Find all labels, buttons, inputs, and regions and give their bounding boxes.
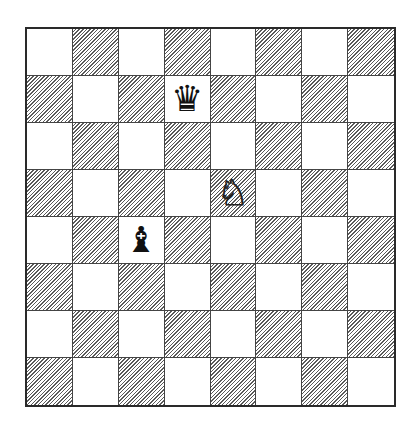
- square-r5-c5: [256, 264, 302, 311]
- square-r4-c3: [165, 217, 211, 264]
- square-r7-c5: [256, 358, 302, 405]
- square-r1-c4: [211, 76, 257, 123]
- square-r0-c3: [165, 29, 211, 76]
- square-r6-c5: [256, 311, 302, 358]
- square-r1-c5: [256, 76, 302, 123]
- square-r6-c1: [73, 311, 119, 358]
- square-r7-c7: [348, 358, 394, 405]
- white-knight-icon: ♘: [217, 175, 249, 211]
- square-r2-c4: [211, 123, 257, 170]
- square-r6-c3: [165, 311, 211, 358]
- square-r0-c2: [119, 29, 165, 76]
- square-r6-c6: [302, 311, 348, 358]
- square-r5-c2: [119, 264, 165, 311]
- square-r2-c7: [348, 123, 394, 170]
- square-r2-c0: [27, 123, 73, 170]
- square-r3-c1: [73, 170, 119, 217]
- square-r2-c1: [73, 123, 119, 170]
- square-r7-c6: [302, 358, 348, 405]
- square-r2-c5: [256, 123, 302, 170]
- square-r5-c7: [348, 264, 394, 311]
- square-r3-c7: [348, 170, 394, 217]
- square-r4-c1: [73, 217, 119, 264]
- square-r3-c6: [302, 170, 348, 217]
- square-r1-c7: [348, 76, 394, 123]
- square-r0-c4: [211, 29, 257, 76]
- square-r1-c1: [73, 76, 119, 123]
- square-r6-c0: [27, 311, 73, 358]
- square-r5-c6: [302, 264, 348, 311]
- square-r0-c6: [302, 29, 348, 76]
- square-r0-c7: [348, 29, 394, 76]
- square-r1-c3: ♛: [165, 76, 211, 123]
- square-r4-c2: ♝: [119, 217, 165, 264]
- square-r3-c3: [165, 170, 211, 217]
- square-r2-c6: [302, 123, 348, 170]
- black-queen-icon: ♛: [171, 81, 203, 117]
- square-r4-c4: [211, 217, 257, 264]
- square-r6-c7: [348, 311, 394, 358]
- square-r7-c4: [211, 358, 257, 405]
- square-r5-c3: [165, 264, 211, 311]
- square-r0-c0: [27, 29, 73, 76]
- square-r3-c5: [256, 170, 302, 217]
- black-bishop-icon: ♝: [125, 222, 157, 258]
- square-r7-c0: [27, 358, 73, 405]
- square-r1-c6: [302, 76, 348, 123]
- square-r1-c0: [27, 76, 73, 123]
- square-r1-c2: [119, 76, 165, 123]
- square-r5-c0: [27, 264, 73, 311]
- chess-board: ♛♘♝: [25, 27, 396, 407]
- square-r0-c5: [256, 29, 302, 76]
- square-r4-c7: [348, 217, 394, 264]
- square-r6-c2: [119, 311, 165, 358]
- square-r3-c0: [27, 170, 73, 217]
- square-r4-c5: [256, 217, 302, 264]
- square-r3-c4: ♘: [211, 170, 257, 217]
- square-r5-c1: [73, 264, 119, 311]
- square-r7-c2: [119, 358, 165, 405]
- square-r2-c3: [165, 123, 211, 170]
- square-r2-c2: [119, 123, 165, 170]
- square-r0-c1: [73, 29, 119, 76]
- square-r4-c0: [27, 217, 73, 264]
- square-r6-c4: [211, 311, 257, 358]
- square-r5-c4: [211, 264, 257, 311]
- square-r4-c6: [302, 217, 348, 264]
- square-r7-c1: [73, 358, 119, 405]
- square-r3-c2: [119, 170, 165, 217]
- square-r7-c3: [165, 358, 211, 405]
